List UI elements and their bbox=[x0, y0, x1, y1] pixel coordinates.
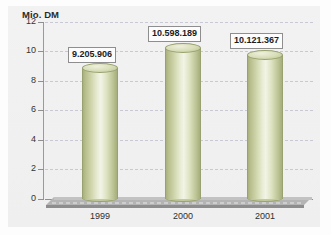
bar-2001-cap bbox=[247, 50, 283, 60]
y-tick-label-4: 4 bbox=[14, 134, 36, 144]
bar-1999-cap bbox=[82, 63, 118, 73]
bar-1999-body bbox=[82, 68, 118, 199]
bar-2000-cap bbox=[165, 43, 201, 53]
y-tick-12 bbox=[38, 22, 44, 23]
x-tick-label-1999: 1999 bbox=[70, 211, 130, 221]
y-axis-line bbox=[43, 22, 44, 200]
y-tick-8 bbox=[38, 81, 44, 82]
y-tick-2 bbox=[38, 169, 44, 170]
y-tick-0 bbox=[38, 199, 44, 200]
y-tick-label-6: 6 bbox=[14, 104, 36, 114]
x-tick-label-2001: 2001 bbox=[235, 211, 295, 221]
chart-container: Mio. DM 12 10 8 6 4 bbox=[0, 0, 331, 235]
y-tick-4 bbox=[38, 140, 44, 141]
y-tick-label-8: 8 bbox=[14, 75, 36, 85]
value-label-2000: 10.598.189 bbox=[148, 26, 201, 42]
bar-1999[interactable] bbox=[82, 63, 118, 205]
y-tick-label-0: 0 bbox=[14, 193, 36, 203]
bar-2000[interactable] bbox=[165, 43, 201, 205]
plot-area: 12 10 8 6 4 2 0 bbox=[0, 0, 331, 235]
y-tick-label-2: 2 bbox=[14, 163, 36, 173]
y-tick-label-12: 12 bbox=[14, 16, 36, 26]
x-tick-label-2000: 2000 bbox=[153, 211, 213, 221]
value-label-2001: 10.121.367 bbox=[230, 33, 283, 49]
value-label-1999: 9.205.906 bbox=[68, 47, 116, 63]
y-tick-6 bbox=[38, 110, 44, 111]
y-tick-label-10: 10 bbox=[14, 45, 36, 55]
y-tick-10 bbox=[38, 51, 44, 52]
bar-2001[interactable] bbox=[247, 50, 283, 205]
bar-2001-body bbox=[247, 55, 283, 199]
gridline-12 bbox=[45, 22, 313, 23]
bar-2000-body bbox=[165, 48, 201, 199]
